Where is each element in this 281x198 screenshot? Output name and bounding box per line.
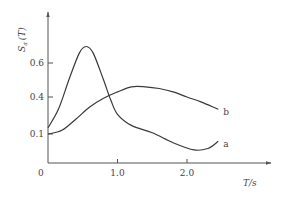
series-label-a: a: [223, 139, 229, 149]
origin-label: 0: [38, 168, 44, 178]
y-tick-label: 0.4: [30, 92, 45, 102]
curves: [48, 47, 218, 151]
y-axis-title: Sa(T): [17, 27, 28, 52]
response-spectrum-chart: Sa(T) T/s 0 1.02.00.10.40.6 ab: [0, 0, 281, 198]
y-axis-title-sub: a: [21, 42, 28, 46]
x-tick-label: 1.0: [110, 168, 125, 178]
y-tick-label: 0.6: [30, 58, 45, 68]
x-tick-label: 2.0: [180, 168, 195, 178]
series-label-b: b: [223, 107, 229, 117]
y-tick-label: 0.1: [30, 129, 44, 139]
series-labels: ab: [223, 107, 229, 149]
y-axis-title-rest: (T): [17, 27, 27, 41]
x-axis-title: T/s: [243, 178, 257, 188]
